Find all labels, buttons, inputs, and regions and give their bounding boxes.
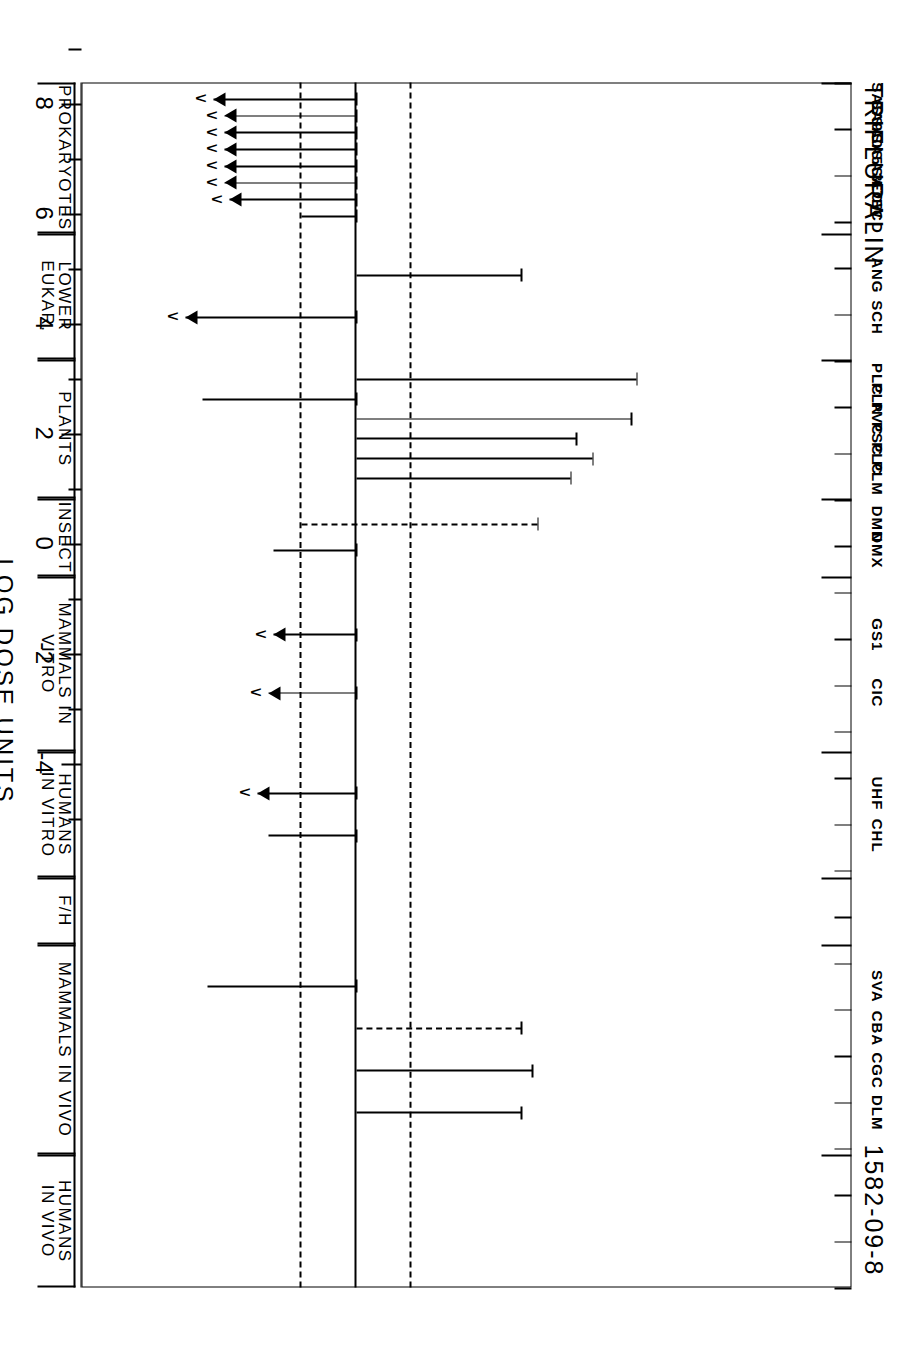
open-ended-arrow	[186, 310, 198, 324]
range-end-cap	[355, 979, 357, 992]
range-bar	[213, 98, 356, 100]
less-than-marker: ∨	[237, 786, 251, 798]
group-band-label: LOWER EUKAR.	[38, 235, 72, 358]
group-separator-tick	[821, 1154, 851, 1156]
range-end-cap	[355, 829, 357, 842]
range-end-cap	[630, 412, 632, 425]
category-tick	[834, 777, 851, 779]
category-tick	[834, 592, 851, 594]
group-band-cell: MAMMALS IN VIVO	[37, 944, 75, 1155]
figure-stage: TRIFLURALIN 1582-09-8 ∨∨∨∨∨∨∨∨∨∨∨ SASSA9…	[0, 0, 899, 1362]
open-ended-arrow	[268, 686, 280, 700]
assay-code-label: SCH	[868, 300, 885, 335]
group-separator-tick	[821, 576, 851, 578]
category-tick	[834, 824, 851, 826]
group-band-label: PROKARYOTES	[55, 84, 72, 231]
range-bar	[356, 1111, 521, 1113]
open-ended-arrow	[230, 192, 242, 206]
range-end-cap	[520, 1106, 522, 1119]
category-tick	[834, 1009, 851, 1011]
category-tick	[834, 1241, 851, 1243]
less-than-marker: ∨	[166, 310, 180, 322]
range-bar	[356, 1027, 521, 1029]
range-end-cap	[355, 786, 357, 799]
category-tick	[834, 638, 851, 640]
group-band-label: HUMANS IN VIVO	[38, 1156, 72, 1285]
range-bar	[274, 549, 357, 551]
range-bar	[356, 477, 571, 479]
group-separator-tick	[821, 233, 851, 235]
range-bar	[301, 215, 356, 217]
range-bar	[356, 457, 593, 459]
range-end-cap	[520, 1021, 522, 1034]
less-than-marker: ∨	[204, 159, 218, 171]
range-end-cap	[355, 628, 357, 641]
range-bar	[224, 165, 356, 167]
range-end-cap	[575, 432, 577, 445]
open-ended-arrow	[224, 175, 236, 189]
less-than-marker: ∨	[193, 92, 207, 104]
category-tick	[834, 1148, 851, 1150]
assay-code-label: DLM	[868, 1095, 885, 1131]
less-than-marker: ∨	[204, 175, 218, 187]
category-tick	[834, 128, 851, 130]
group-band-cell: HUMANS IN VIVO	[37, 1154, 75, 1287]
assay-code-label: CIC	[868, 678, 885, 707]
open-ended-arrow	[224, 125, 236, 139]
category-tick	[834, 731, 851, 733]
assay-code-label: ECD	[868, 199, 885, 234]
group-band-cell: PLANTS	[37, 359, 75, 498]
less-than-marker: ∨	[254, 627, 268, 639]
range-bar	[208, 985, 357, 987]
range-bar	[356, 1069, 532, 1071]
assay-code-label: CGC	[868, 1052, 885, 1088]
group-band-cell: MAMMALS IN VITRO	[37, 576, 75, 751]
range-end-cap	[355, 392, 357, 405]
category-tick	[834, 314, 851, 316]
less-than-marker: ∨	[204, 142, 218, 154]
less-than-marker: ∨	[248, 686, 262, 698]
category-tick	[834, 82, 851, 84]
axis-title: LOG DOSE UNITS	[0, 0, 17, 1362]
category-tick	[834, 175, 851, 177]
plot-area	[81, 82, 851, 1287]
assay-code-label: CBA	[868, 1010, 885, 1046]
range-bar	[186, 316, 357, 318]
range-end-cap	[355, 209, 357, 222]
range-end-cap	[636, 372, 638, 385]
group-band-cell: F/H	[37, 877, 75, 943]
group-band-label: MAMMALS IN VITRO	[38, 578, 72, 749]
open-ended-arrow	[274, 627, 286, 641]
open-ended-arrow	[224, 142, 236, 156]
range-end-cap	[537, 517, 539, 530]
range-end-cap	[531, 1064, 533, 1077]
group-separator-tick	[821, 944, 851, 946]
assay-code-label: PLM	[868, 461, 885, 496]
range-end-cap	[520, 268, 522, 281]
range-end-cap	[355, 92, 357, 105]
category-tick	[834, 1102, 851, 1104]
less-than-marker: ∨	[204, 125, 218, 137]
group-band-cell: PROKARYOTES	[37, 82, 75, 233]
group-band-cell: HUMANS IN VITRO	[37, 751, 75, 878]
unit-reference-line	[299, 82, 301, 1287]
open-ended-arrow	[224, 159, 236, 173]
range-bar	[356, 437, 576, 439]
range-bar	[257, 792, 356, 794]
range-end-cap	[355, 686, 357, 699]
range-end-cap	[592, 452, 594, 465]
group-band-label: HUMANS IN VITRO	[38, 753, 72, 876]
range-end-cap	[355, 126, 357, 139]
less-than-marker: ∨	[204, 108, 218, 120]
range-bar	[224, 182, 356, 184]
range-end-cap	[355, 142, 357, 155]
zero-reference-line	[354, 82, 356, 1287]
unit-reference-line	[409, 82, 411, 1287]
cas-number: 1582-09-8	[858, 1144, 887, 1276]
range-bar	[224, 115, 356, 117]
category-tick	[834, 453, 851, 455]
range-end-cap	[355, 543, 357, 556]
category-tick	[834, 267, 851, 269]
range-end-cap	[355, 310, 357, 323]
open-ended-arrow	[224, 108, 236, 122]
